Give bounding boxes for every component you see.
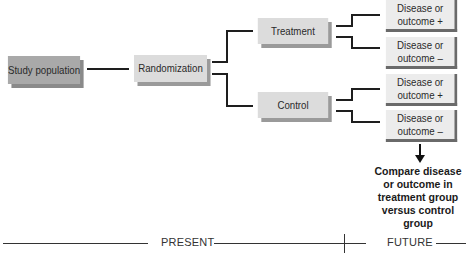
- node-control: Control: [258, 92, 328, 118]
- connector-line: [87, 68, 129, 70]
- connector-line: [226, 105, 253, 107]
- randomized-trial-diagram: Study population Randomization Treatment…: [0, 0, 471, 259]
- node-label: Study population: [8, 64, 80, 77]
- node-label: Treatment: [271, 25, 315, 38]
- node-treatment: Treatment: [258, 18, 328, 44]
- node-label: Disease or outcome +: [391, 76, 449, 102]
- timeline-divider-tick: [344, 234, 345, 253]
- connector-line: [351, 121, 380, 123]
- node-label: Disease or outcome +: [391, 2, 449, 28]
- connector-line: [351, 88, 380, 90]
- connector-line: [351, 14, 380, 16]
- connector-line: [351, 47, 380, 49]
- timeline-future-label: FUTURE: [387, 236, 433, 248]
- node-treatment-outcome-negative: Disease or outcome –: [386, 37, 457, 69]
- node-randomization: Randomization: [134, 55, 207, 82]
- connector-line: [226, 73, 228, 107]
- node-label: Control: [277, 99, 308, 112]
- node-label: Disease or outcome –: [391, 112, 449, 138]
- node-control-outcome-negative: Disease or outcome –: [386, 110, 457, 142]
- node-control-outcome-positive: Disease or outcome +: [386, 74, 457, 106]
- node-label: Disease or outcome –: [391, 39, 449, 65]
- timeline-line: [436, 243, 466, 244]
- node-treatment-outcome-positive: Disease or outcome +: [386, 0, 457, 32]
- connector-line: [336, 110, 352, 112]
- node-label: Randomization: [138, 62, 203, 75]
- arrow-head-icon: [415, 155, 425, 163]
- connector-line: [226, 30, 253, 32]
- node-study-population: Study population: [8, 56, 80, 84]
- connector-line: [226, 30, 228, 63]
- connector-line: [336, 25, 352, 27]
- timeline-line: [3, 243, 148, 244]
- connector-line: [336, 99, 352, 101]
- connector-line: [336, 36, 352, 38]
- timeline-present-label: PRESENT: [161, 236, 214, 248]
- conclusion-text: Compare disease or outcome in treatment …: [368, 165, 468, 230]
